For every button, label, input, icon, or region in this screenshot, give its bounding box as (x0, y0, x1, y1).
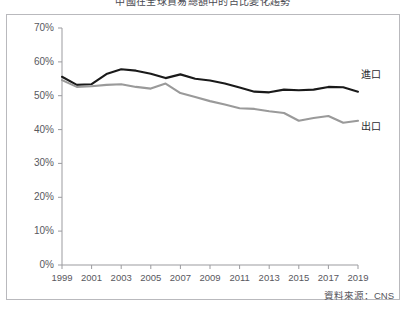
y-tick-label-30: 30% (22, 157, 54, 168)
x-tick-label-2011: 2011 (229, 272, 249, 283)
y-tick-label-0: 0% (22, 259, 54, 270)
series-label-import: 進口 (361, 66, 381, 81)
y-tick-label-50: 50% (22, 90, 54, 101)
y-tick-label-40: 40% (22, 124, 54, 135)
x-tick-label-2001: 2001 (81, 272, 102, 283)
line-series-export (62, 80, 358, 123)
x-axis (62, 265, 358, 269)
y-tick-label-70: 70% (22, 22, 54, 33)
series-label-export: 出口 (361, 118, 381, 133)
x-tick-label-2015: 2015 (288, 272, 309, 283)
x-tick-label-2003: 2003 (111, 272, 132, 283)
x-tick-label-1999: 1999 (51, 272, 72, 283)
line-series-import (62, 69, 358, 92)
x-tick-label-2019: 2019 (347, 272, 368, 283)
y-tick-label-10: 10% (22, 225, 54, 236)
source-note: 資料來源：CNS (324, 288, 394, 302)
x-tick-label-2007: 2007 (170, 272, 191, 283)
chart-plot-area (0, 0, 406, 313)
y-axis (58, 28, 62, 265)
x-tick-label-2013: 2013 (259, 272, 280, 283)
x-tick-label-2009: 2009 (199, 272, 220, 283)
x-tick-label-2017: 2017 (318, 272, 339, 283)
chart-figure: 中國在全球貿易總額中的占比變化趨勢 (0, 0, 406, 313)
y-tick-label-20: 20% (22, 191, 54, 202)
x-tick-label-2005: 2005 (140, 272, 161, 283)
y-tick-label-60: 60% (22, 56, 54, 67)
